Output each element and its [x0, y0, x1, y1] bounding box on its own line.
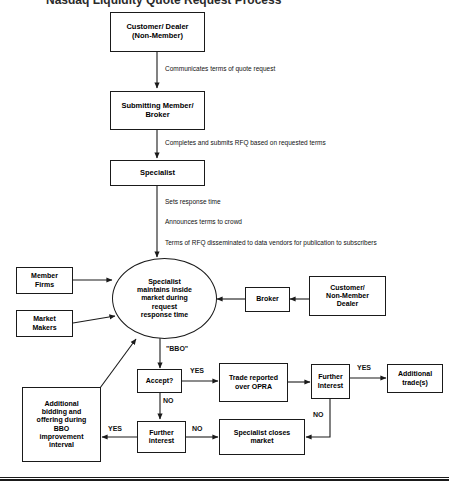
node-addbid-line4: BBO — [37, 425, 87, 433]
node-trade-line2: over OPRA — [229, 383, 278, 391]
node-addbid-line3: offering during — [37, 416, 87, 424]
node-member-firms[interactable]: Member Firms — [16, 267, 73, 294]
node-submitting-member-line2: Broker — [121, 111, 193, 120]
node-trade-line1: Trade reported — [229, 374, 278, 382]
edge-label-sets-response-time: Sets response time — [165, 198, 221, 205]
edge-label-further-bottom-yes: YES — [108, 425, 122, 432]
bottom-rule-thick — [0, 479, 449, 481]
node-accept-decision[interactable]: Accept? — [137, 369, 182, 393]
flowchart-canvas: Nasdaq Liquidity Quote Request Process — [0, 0, 449, 495]
node-market-makers[interactable]: Market Makers — [16, 310, 73, 337]
document-title-clipped: Nasdaq Liquidity Quote Request Process — [0, 0, 449, 7]
oval-line4: request — [137, 303, 192, 311]
node-additional-bidding-bbo-improvement[interactable]: Additional bidding and offering during B… — [22, 387, 101, 462]
node-specialist-line1: Specialist — [140, 169, 175, 178]
edge-label-accept-yes: YES — [190, 367, 204, 374]
oval-line5: response time — [137, 311, 192, 319]
node-market-makers-line1: Market — [32, 315, 56, 323]
node-additional-trades[interactable]: Additional trade(s) — [387, 364, 443, 393]
node-further-interest-top[interactable]: Further Interest — [311, 364, 350, 399]
node-market-makers-line2: Makers — [32, 324, 56, 332]
node-addbid-line1: Additional — [37, 400, 87, 408]
node-customer-dealer[interactable]: Customer/ Dealer (Non-Member) — [110, 12, 205, 52]
node-member-firms-line2: Firms — [31, 281, 58, 289]
node-broker-line1: Broker — [256, 295, 279, 303]
node-customer-non-member-dealer[interactable]: Customer/ Non-Member Dealer — [309, 276, 386, 316]
edge-label-announces-terms: Announces terms to crowd — [165, 218, 242, 225]
node-submitting-member-broker[interactable]: Submitting Member/ Broker — [110, 91, 205, 130]
edge-label-bbo: "BBO" — [166, 345, 188, 352]
edge-label-accept-no: NO — [163, 397, 174, 404]
edge-label-terms-disseminated: Terms of RFQ disseminated to data vendor… — [165, 239, 377, 246]
node-cnmd-line2: Non-Member — [326, 292, 369, 300]
bottom-rule-thin — [0, 477, 449, 478]
oval-line2: maintains inside — [137, 286, 192, 294]
oval-line3: market during — [137, 294, 192, 302]
node-fib-line2: interest — [149, 437, 174, 445]
edge-label-further-top-yes: YES — [357, 364, 371, 371]
node-broker[interactable]: Broker — [245, 287, 290, 312]
page-title: Nasdaq Liquidity Quote Request Process — [46, 0, 281, 7]
node-specialist[interactable]: Specialist — [110, 160, 205, 186]
node-closes-line1: Specialist closes — [234, 429, 290, 437]
node-addbid-line5: improvement — [37, 433, 87, 441]
edge-label-completes-submits: Completes and submits RFQ based on reque… — [165, 139, 326, 146]
node-cnmd-line3: Dealer — [326, 300, 369, 308]
edge-label-further-top-no: NO — [313, 411, 324, 418]
node-specialist-maintains-inside-market[interactable]: Specialist maintains inside market durin… — [112, 258, 217, 339]
node-addbid-line6: interval — [37, 441, 87, 449]
node-addtrades-line1: Additional — [398, 370, 432, 378]
node-fib-line1: Further — [149, 429, 174, 437]
edge-label-communicates-terms: Communicates terms of quote request — [165, 65, 275, 72]
node-customer-dealer-line2: (Non-Member) — [126, 32, 188, 41]
node-member-firms-line1: Member — [31, 272, 58, 280]
oval-line1: Specialist — [137, 278, 192, 286]
node-fit-line1: Further — [318, 373, 343, 381]
node-accept-line1: Accept? — [146, 377, 174, 385]
node-addbid-line2: bidding and — [37, 408, 87, 416]
node-closes-line2: market — [234, 437, 290, 445]
node-cnmd-line1: Customer/ — [326, 284, 369, 292]
node-fit-line2: Interest — [318, 382, 343, 390]
node-addtrades-line2: trade(s) — [398, 379, 432, 387]
edge-label-further-bottom-no: NO — [192, 425, 203, 432]
node-specialist-closes-market[interactable]: Specialist closes market — [219, 419, 305, 455]
node-trade-reported-over-opra[interactable]: Trade reported over OPRA — [219, 363, 288, 402]
node-further-interest-bottom[interactable]: Further interest — [137, 421, 186, 453]
